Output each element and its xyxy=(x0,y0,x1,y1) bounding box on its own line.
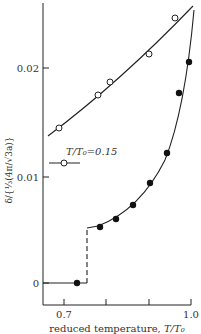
legend-label: T/T₀=0.15 xyxy=(66,146,117,157)
open-series-curve xyxy=(48,6,193,136)
x-tick-label: 1.0 xyxy=(183,309,199,320)
legend: T/T₀=0.15 xyxy=(49,146,117,166)
legend-marker-icon xyxy=(61,160,67,166)
chart-svg: 0 0.01 0.02 0.7 1.0 reduced temperature,… xyxy=(0,0,201,334)
chart: 0 0.01 0.02 0.7 1.0 reduced temperature,… xyxy=(0,0,201,334)
x-axis-label: reduced temperature, T/T₀ xyxy=(49,323,184,334)
filled-series-curve xyxy=(87,10,194,228)
open-series-points xyxy=(56,15,178,131)
y-tick-label: 0 xyxy=(33,278,39,289)
filled-series-points xyxy=(74,59,192,286)
y-axis-label: δ/{⅓(4π/√3a)} xyxy=(4,136,14,203)
y-tick-label: 0.01 xyxy=(17,172,39,183)
y-tick-label: 0.02 xyxy=(17,63,39,74)
x-tick-label: 0.7 xyxy=(56,309,72,320)
